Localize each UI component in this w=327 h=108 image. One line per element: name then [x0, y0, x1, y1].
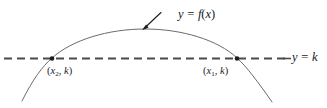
intersection-point-x2 [50, 56, 55, 61]
curve-label: y = f(x) [178, 8, 215, 21]
curve-label-close-paren: ) [211, 7, 215, 21]
point-label-x2-close-paren: ) [69, 65, 73, 76]
point-label-x1-comma: , [215, 65, 218, 76]
line-label-k: k [312, 50, 318, 64]
point-label-x1: (x1, k) [203, 66, 228, 78]
point-label-x2-comma: , [59, 65, 62, 76]
line-label: y = k [292, 51, 317, 64]
intersection-point-x1 [235, 56, 240, 61]
figure-canvas: y = f(x) y = k (x2, k) (x1, k) [0, 0, 327, 108]
point-label-x1-close-paren: ) [225, 65, 229, 76]
point-label-x2: (x2, k) [47, 66, 72, 78]
graph-svg [0, 0, 327, 108]
